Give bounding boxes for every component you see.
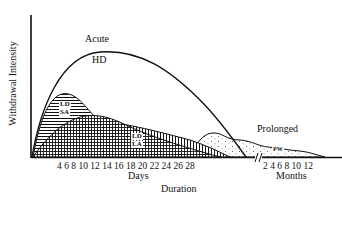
y-axis-label: Withdrawal Intensity <box>7 36 18 132</box>
acute-label: Acute <box>85 34 109 44</box>
ld-sa-label-ld: LD <box>59 101 71 108</box>
ld-la-label-la: LA <box>131 141 143 148</box>
day-ticks: 4 6 8 10 12 14 16 18 20 22 24 26 28 <box>57 161 195 171</box>
days-label: Days <box>128 171 149 181</box>
ld-sa-label-sa: SA <box>59 109 70 116</box>
hd-label: HD <box>92 55 106 65</box>
ld-la-label-ld: LD <box>131 133 143 140</box>
months-label: Months <box>276 171 307 181</box>
prolonged-label: Prolonged <box>257 124 298 134</box>
pw-label: PW <box>272 146 284 153</box>
duration-label: Duration <box>161 184 197 194</box>
